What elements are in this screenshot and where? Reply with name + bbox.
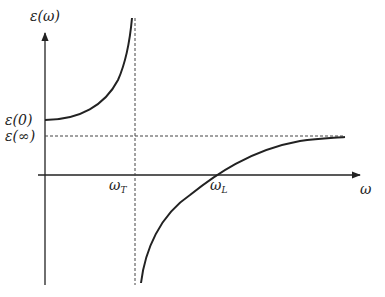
eps-inf-label: ε(∞) <box>5 128 35 144</box>
dielectric-diagram: ε(ω) ε(0) ε(∞) ω ωT ωL <box>0 0 385 297</box>
omega-l-label: ωL <box>210 177 227 195</box>
omega-t-label: ωT <box>109 177 127 195</box>
curve-high-branch <box>141 137 345 283</box>
eps-zero-label: ε(0) <box>5 112 32 128</box>
y-axis-label: ε(ω) <box>30 8 60 24</box>
curve-low-branch <box>45 18 132 120</box>
x-axis-label: ω <box>360 181 372 197</box>
